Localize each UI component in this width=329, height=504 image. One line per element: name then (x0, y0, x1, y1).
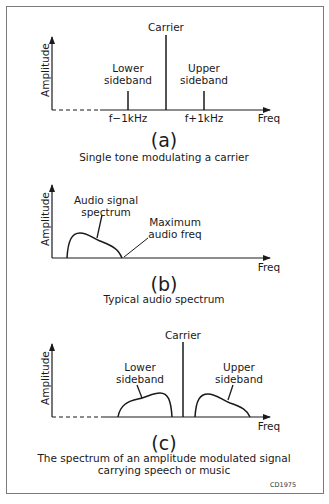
panel-b-max-freq-leader (124, 238, 148, 257)
panel-a-graph (52, 35, 270, 110)
panel-a-x-label: Freq (254, 112, 284, 124)
panel-c-upper-label-2: sideband (209, 373, 269, 385)
panel-b-max-label-2: audio freq (145, 228, 205, 240)
panel-b-id: (b) (134, 274, 194, 294)
panel-b-max-label-1: Maximum (145, 216, 205, 228)
panel-a-upper-label-2: sideband (174, 74, 234, 86)
panel-b-y-label: Amplitude (39, 192, 51, 246)
figure-code: CD1975 (270, 481, 296, 489)
panel-b-spectrum-label-2: spectrum (66, 206, 146, 218)
panel-a-id: (a) (134, 130, 194, 150)
panel-a-upper-tick: f+1kHz (179, 112, 229, 124)
panel-a-lower-label-1: Lower (98, 62, 158, 74)
panel-b-x-label: Freq (254, 261, 284, 273)
panel-c-caption-line-1: The spectrum of an amplitude modulated s… (24, 452, 304, 465)
panel-c-id: (c) (134, 433, 194, 453)
panel-a-lower-tick: f−1kHz (103, 112, 153, 124)
panel-c-lower-label-2: sideband (110, 373, 170, 385)
panel-b-spectrum-leader (97, 215, 102, 238)
panel-c-lower-leader (137, 385, 142, 398)
panel-a-carrier-label: Carrier (141, 21, 191, 33)
panel-c-upper-leader (228, 385, 233, 400)
panel-c-upper-sideband-curve (195, 394, 250, 417)
panel-a-caption: Single tone modulating a carrier (64, 151, 264, 164)
panel-a-lower-label-2: sideband (98, 74, 158, 86)
panel-c-y-label: Amplitude (39, 351, 51, 405)
panel-c-caption-line-2: carrying speech or music (24, 464, 304, 477)
panel-a-y-label: Amplitude (39, 43, 51, 97)
panel-b-caption: Typical audio spectrum (84, 293, 244, 306)
panel-c-lower-sideband-curve (118, 393, 172, 417)
panel-c-x-label: Freq (254, 420, 284, 432)
panel-b-audio-spectrum-curve (67, 233, 122, 258)
panel-c-carrier-label: Carrier (158, 329, 208, 341)
panel-b-spectrum-label-1: Audio signal (66, 194, 146, 206)
panel-c-lower-label-1: Lower (110, 361, 170, 373)
panel-a-upper-label-1: Upper (174, 62, 234, 74)
panel-c-upper-label-1: Upper (209, 361, 269, 373)
